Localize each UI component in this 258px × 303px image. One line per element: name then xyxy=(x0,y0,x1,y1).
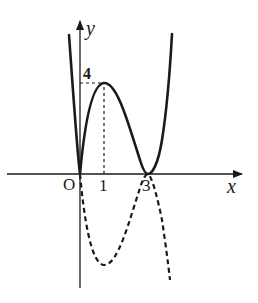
function-graph: y x O 1 3 4 xyxy=(0,0,258,303)
y-tick-label-4: 4 xyxy=(83,66,91,82)
x-tick-label-3: 3 xyxy=(142,177,151,194)
dashed-curve xyxy=(80,174,170,280)
solid-curve xyxy=(69,34,172,174)
x-tick-label-1: 1 xyxy=(99,177,108,194)
graph-canvas xyxy=(0,0,258,303)
y-axis-label: y xyxy=(86,18,95,38)
x-axis-label: x xyxy=(227,176,236,196)
origin-label: O xyxy=(63,176,75,193)
